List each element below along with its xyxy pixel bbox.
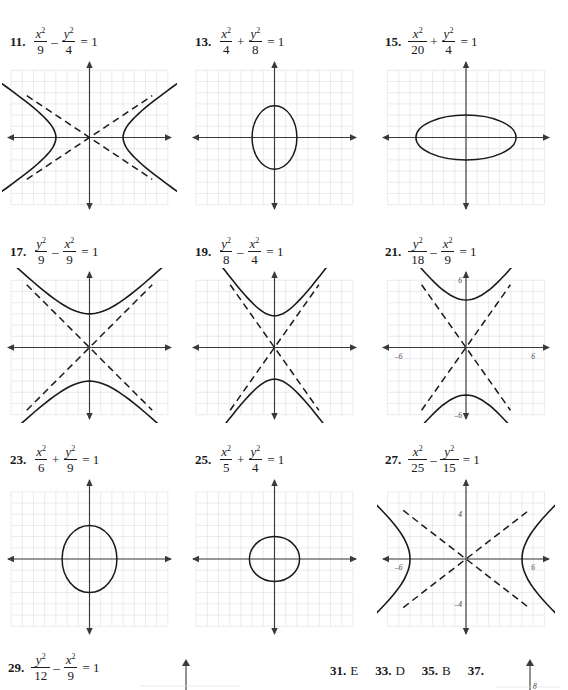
problem-19-cell: 19.y28–x24= 1 — [187, 234, 362, 423]
problem-23-graph — [2, 476, 177, 638]
fraction-left: x220 — [408, 27, 427, 56]
axes — [383, 62, 549, 209]
fraction-right: y29 — [62, 445, 78, 474]
equals-one: = 1 — [460, 35, 477, 48]
operator: – — [51, 35, 58, 48]
problem-17-graph — [2, 268, 177, 423]
operator: + — [237, 35, 244, 48]
fraction-left: x26 — [33, 445, 49, 474]
answer-number: 35. — [422, 663, 438, 678]
fraction-left: y28 — [218, 237, 234, 266]
svg-text:4: 4 — [458, 510, 462, 519]
problem-21-svg: 6–6–66 — [377, 268, 555, 423]
answer-key-page: 11.x29–y24= 113.x24+y28= 115.x220+y24= 1… — [0, 0, 568, 690]
problem-19-graph — [187, 268, 362, 423]
partial-label: 8 — [533, 682, 537, 690]
fraction-right: x24 — [247, 237, 263, 266]
problem-15-number: 15. — [385, 35, 401, 48]
svg-text:–6: –6 — [394, 563, 403, 572]
equals-one: = 1 — [83, 661, 100, 674]
operator: – — [430, 453, 437, 466]
svg-text:6: 6 — [531, 563, 535, 572]
problem-25-number: 25. — [195, 453, 211, 466]
answer-31: 31.E — [330, 663, 358, 679]
problem-17-svg — [2, 268, 177, 423]
problem-13-svg — [187, 58, 362, 213]
problem-21-cell: 21.y218–x29= 16–6–66 — [377, 234, 555, 423]
problem-21-graph: 6–6–66 — [377, 268, 555, 423]
problem-23-cell: 23.x26+y29= 1 — [2, 442, 177, 638]
axes — [8, 272, 171, 419]
svg-text:6: 6 — [531, 352, 535, 361]
equals-one: = 1 — [463, 453, 480, 466]
equals-one: = 1 — [460, 245, 477, 258]
problem-29-cell: 29. y2 12 – x2 9 = 1 — [8, 650, 100, 684]
fraction-right: y24 — [441, 27, 457, 56]
equals-one: = 1 — [82, 453, 99, 466]
equals-one: = 1 — [267, 35, 284, 48]
fraction-left: y29 — [33, 237, 49, 266]
problem-13-number: 13. — [195, 35, 211, 48]
fraction-right: y215 — [440, 445, 459, 474]
problem-27-number: 27. — [385, 453, 401, 466]
problem-13-equation: 13.x24+y28= 1 — [195, 24, 362, 58]
fraction-left: y218 — [408, 237, 427, 266]
axes — [383, 272, 549, 419]
problem-29-equation: 29. y2 12 – x2 9 = 1 — [8, 650, 100, 684]
problem-17-cell: 17.y29–x29= 1 — [2, 234, 177, 423]
fraction-right: y24 — [247, 445, 263, 474]
problem-11-equation: 11.x29–y24= 1 — [10, 24, 177, 58]
problem-15-svg — [377, 58, 555, 213]
operator: + — [237, 453, 244, 466]
answer-value: E — [350, 663, 358, 678]
problem-21-number: 21. — [385, 245, 401, 258]
fraction-left: y2 12 — [31, 653, 50, 682]
answer-33: 33.D — [375, 663, 405, 679]
svg-text:–4: –4 — [454, 600, 463, 609]
problem-17-number: 17. — [10, 245, 26, 258]
problem-27-tick-labels: 84–4–8–66 — [394, 476, 535, 638]
problem-17-equation: 17.y29–x29= 1 — [10, 234, 177, 268]
answer-value: D — [395, 663, 404, 678]
problem-23-equation: 23.x26+y29= 1 — [10, 442, 177, 476]
operator: – — [237, 245, 244, 258]
fraction-left: x225 — [408, 445, 427, 474]
fraction-right: y24 — [61, 27, 77, 56]
partial-graph-37: 8 — [455, 656, 565, 690]
operator: – — [52, 245, 59, 258]
problem-25-equation: 25.x25+y24= 1 — [195, 442, 362, 476]
operator: – — [430, 245, 437, 258]
equals-one: = 1 — [81, 245, 98, 258]
problem-25-cell: 25.x25+y24= 1 — [187, 442, 362, 638]
axes — [8, 62, 171, 209]
svg-text:–6: –6 — [454, 411, 463, 420]
problem-15-graph — [377, 58, 555, 213]
problem-19-equation: 19.y28–x24= 1 — [195, 234, 362, 268]
problem-11-svg — [2, 58, 177, 213]
fraction-right: x29 — [440, 237, 456, 266]
axes — [193, 272, 356, 419]
problem-19-svg — [187, 268, 362, 423]
partial-graph-29 — [130, 656, 250, 690]
problem-25-svg — [187, 476, 362, 638]
problem-27-svg: 84–4–8–66 — [377, 476, 555, 638]
problem-27-equation: 27.x225–y215= 1 — [385, 442, 555, 476]
operator: + — [430, 35, 437, 48]
equals-one: = 1 — [81, 35, 98, 48]
answer-number: 33. — [375, 663, 391, 678]
problem-11-graph — [2, 58, 177, 213]
equals-one: = 1 — [266, 245, 283, 258]
axes — [193, 62, 356, 209]
problem-19-number: 19. — [195, 245, 211, 258]
fraction-right: y28 — [247, 27, 263, 56]
fraction-left: x24 — [218, 27, 234, 56]
problem-13-graph — [187, 58, 362, 213]
operator: + — [52, 453, 59, 466]
problem-29-number: 29. — [8, 661, 24, 674]
answer-number: 31. — [330, 663, 346, 678]
problem-27-cell: 27.x225–y215= 184–4–8–66 — [377, 442, 555, 638]
problem-21-equation: 21.y218–x29= 1 — [385, 234, 555, 268]
answer-value: B — [442, 663, 451, 678]
problem-11-number: 11. — [10, 35, 26, 48]
problem-23-svg — [2, 476, 177, 638]
